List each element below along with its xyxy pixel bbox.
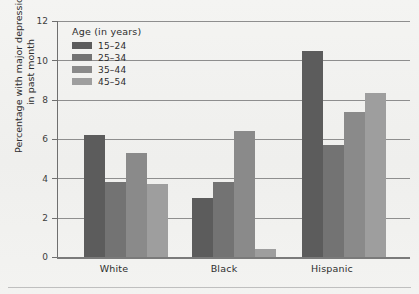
bar-black-15-24 (192, 198, 213, 257)
bar-white-45-54 (147, 184, 168, 257)
y-tick-label-6: 6 (26, 134, 48, 144)
legend-title: Age (in years) (72, 26, 141, 37)
y-axis-title-line-1: Percentage with major depression (13, 0, 25, 160)
legend-item-label: 35–44 (98, 65, 126, 75)
legend-item: 25–34 (72, 52, 141, 63)
bar-chart-figure: Percentage with major depression in past… (0, 0, 419, 294)
gridline-8 (58, 100, 410, 101)
bar-white-35-44 (126, 153, 147, 257)
bottom-divider (8, 287, 411, 288)
bar-hispanic-25-34 (323, 145, 344, 257)
bar-hispanic-35-44 (344, 112, 365, 257)
y-tick-label-8: 8 (26, 95, 48, 105)
bar-white-25-34 (105, 182, 126, 257)
x-category-label-hispanic: Hispanic (292, 263, 372, 274)
bar-white-15-24 (84, 135, 105, 257)
x-axis-line (57, 257, 410, 259)
legend-swatch-icon (72, 42, 92, 49)
legend: Age (in years) 15–2425–3435–4445–54 (72, 26, 141, 88)
legend-swatch-icon (72, 78, 92, 85)
legend-item-label: 25–34 (98, 53, 126, 63)
y-tick-label-2: 2 (26, 213, 48, 223)
bar-black-35-44 (234, 131, 255, 257)
gridline-12 (58, 21, 410, 22)
x-category-label-white: White (74, 263, 154, 274)
legend-item: 15–24 (72, 40, 141, 51)
legend-item: 45–54 (72, 76, 141, 87)
bar-black-45-54 (255, 249, 276, 257)
y-tick-label-0: 0 (26, 252, 48, 262)
y-tick-label-4: 4 (26, 174, 48, 184)
y-tick-label-10: 10 (26, 56, 48, 66)
y-tick-label-12: 12 (26, 16, 48, 26)
bar-hispanic-45-54 (365, 93, 386, 257)
legend-item: 35–44 (72, 64, 141, 75)
bar-hispanic-15-24 (302, 51, 323, 258)
legend-items: 15–2425–3435–4445–54 (72, 40, 141, 87)
bar-black-25-34 (213, 182, 234, 257)
legend-item-label: 45–54 (98, 77, 126, 87)
legend-item-label: 15–24 (98, 41, 126, 51)
x-category-label-black: Black (184, 263, 264, 274)
legend-swatch-icon (72, 66, 92, 73)
legend-swatch-icon (72, 54, 92, 61)
